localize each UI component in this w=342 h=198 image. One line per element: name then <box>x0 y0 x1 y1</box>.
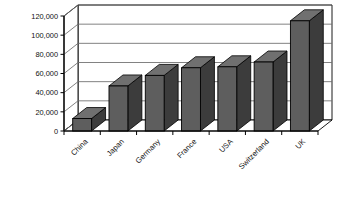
x-axis-tick-label: Germany <box>134 137 163 166</box>
bar <box>109 75 142 131</box>
bar-front-face <box>290 21 309 131</box>
y-axis-tick-label: 20,000 <box>35 108 58 117</box>
bar <box>218 56 251 131</box>
x-axis-tick-labels: ChinaJapanGermanyFranceUSASwitzerlandUK <box>69 136 307 171</box>
x-axis-tick-label: UK <box>293 137 307 151</box>
y-axis-tick-label: 40,000 <box>35 88 58 97</box>
bar-front-face <box>218 67 237 131</box>
bar-front-face <box>254 62 273 131</box>
bar-side-face <box>164 64 178 131</box>
x-axis-tick-label: China <box>69 137 90 158</box>
y-axis-tick-label: 60,000 <box>35 69 58 78</box>
x-axis-tick-label: USA <box>217 136 235 154</box>
bar-side-face <box>200 57 214 131</box>
y-axis-tick-labels: 020,00040,00060,00080,000100,000120,000 <box>31 12 58 136</box>
bar <box>290 10 323 131</box>
y-axis-tick-label: 120,000 <box>31 12 58 21</box>
x-axis-tick-label: Switzerland <box>237 137 271 171</box>
bar-chart: 020,00040,00060,00080,000100,000120,000 … <box>0 0 342 198</box>
y-axis-tick-label: 80,000 <box>35 50 58 59</box>
bar-side-face <box>237 56 251 131</box>
bar <box>182 57 215 131</box>
bar-front-face <box>73 119 92 131</box>
bar-front-face <box>182 68 201 131</box>
x-axis-ticks <box>64 131 318 135</box>
bar-front-face <box>145 75 164 131</box>
x-axis-tick-label: Japan <box>105 137 126 158</box>
bar-front-face <box>109 86 128 131</box>
bar-side-face <box>309 10 323 131</box>
x-axis-tick-label: France <box>175 137 198 160</box>
chart-canvas: 020,00040,00060,00080,000100,000120,000 … <box>0 0 342 198</box>
y-axis-tick-label: 100,000 <box>31 31 58 40</box>
bar <box>254 51 287 131</box>
bar-side-face <box>273 51 287 131</box>
bar <box>145 64 178 131</box>
y-axis-tick-label: 0 <box>54 127 58 136</box>
